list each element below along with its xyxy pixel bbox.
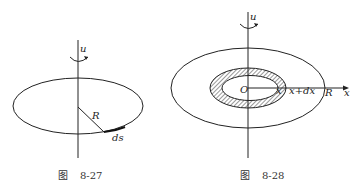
label-u: u — [250, 11, 256, 22]
caption-number: 8-28 — [262, 170, 284, 181]
label-R: R — [324, 87, 333, 98]
label-R: R — [91, 110, 100, 121]
caption-prefix: 图 — [240, 170, 250, 181]
figures-canvas: u R ds 图 8-27 u O x x+dx R x 图 8-28 — [0, 0, 359, 193]
caption-prefix: 图 — [58, 170, 68, 181]
figure-8-28: u O x x+dx R x 图 8-28 — [171, 11, 350, 181]
label-u: u — [80, 43, 86, 54]
label-x-plus-dx: x+dx — [289, 85, 315, 96]
label-O: O — [240, 84, 248, 95]
figure-8-27: u R ds 图 8-27 — [13, 40, 143, 181]
caption-number: 8-27 — [80, 170, 102, 181]
label-x-axis: x — [344, 87, 350, 98]
label-x-inner: x — [276, 85, 282, 96]
radius-line — [78, 107, 104, 132]
label-ds: ds — [112, 132, 124, 143]
